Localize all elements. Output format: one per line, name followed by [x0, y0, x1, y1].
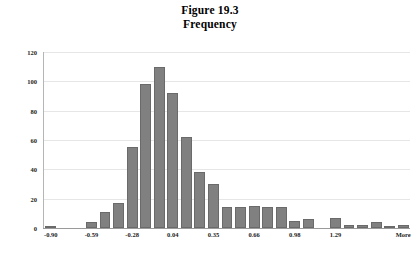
histogram-bar — [222, 207, 233, 228]
y-axis-tick-label: 80 — [31, 107, 38, 114]
plot-area — [44, 52, 410, 228]
y-axis-tick-label: 60 — [31, 137, 38, 144]
histogram-bar — [303, 219, 314, 228]
histogram-bar — [384, 226, 395, 228]
x-axis-tick-label: More — [396, 231, 411, 238]
histogram-bar — [100, 212, 111, 228]
x-axis-tick-label: -0.90 — [44, 231, 58, 238]
y-axis-tick-label: 100 — [27, 78, 37, 85]
x-axis-tick-label: -0.59 — [85, 231, 99, 238]
histogram-bar — [127, 147, 138, 228]
histogram-bar — [194, 172, 205, 228]
x-axis-tick-label: -0.28 — [125, 231, 139, 238]
y-axis-tick-label: 120 — [27, 49, 37, 56]
histogram-bar — [289, 221, 300, 228]
histogram-bar — [344, 225, 355, 228]
x-axis-labels: -0.90-0.59-0.280.040.350.660.981.29More — [44, 231, 410, 245]
histogram-bar — [235, 207, 246, 228]
x-axis-tick-label: 0.35 — [208, 231, 219, 238]
histogram-bar — [330, 218, 341, 228]
histogram-figure: Figure 19.3 Frequency 020406080100120 -0… — [0, 0, 420, 261]
x-axis-line — [43, 228, 410, 229]
y-axis-tick-label: 0 — [34, 225, 37, 232]
bar-series — [44, 52, 410, 228]
x-axis-tick-label: 0.98 — [289, 231, 300, 238]
histogram-bar — [249, 206, 260, 228]
histogram-bar — [398, 225, 409, 228]
y-axis-tick-label: 20 — [31, 195, 38, 202]
histogram-bar — [181, 137, 192, 228]
histogram-bar — [113, 203, 124, 228]
y-axis-labels: 020406080100120 — [0, 52, 40, 228]
histogram-bar — [86, 222, 97, 228]
histogram-bar — [276, 207, 287, 228]
histogram-bar — [262, 207, 273, 228]
figure-title-line2: Frequency — [0, 17, 420, 31]
x-axis-tick-label: 1.29 — [330, 231, 341, 238]
histogram-bar — [154, 67, 165, 228]
histogram-bar — [167, 93, 178, 228]
histogram-bar — [45, 226, 56, 228]
histogram-bar — [140, 84, 151, 228]
figure-title-line1: Figure 19.3 — [0, 3, 420, 17]
histogram-bar — [208, 184, 219, 228]
histogram-bar — [357, 225, 368, 228]
figure-title-block: Figure 19.3 Frequency — [0, 3, 420, 31]
histogram-bar — [371, 222, 382, 228]
x-axis-tick-label: 0.04 — [167, 231, 178, 238]
y-axis-tick-label: 40 — [31, 166, 38, 173]
x-axis-tick-label: 0.66 — [248, 231, 259, 238]
